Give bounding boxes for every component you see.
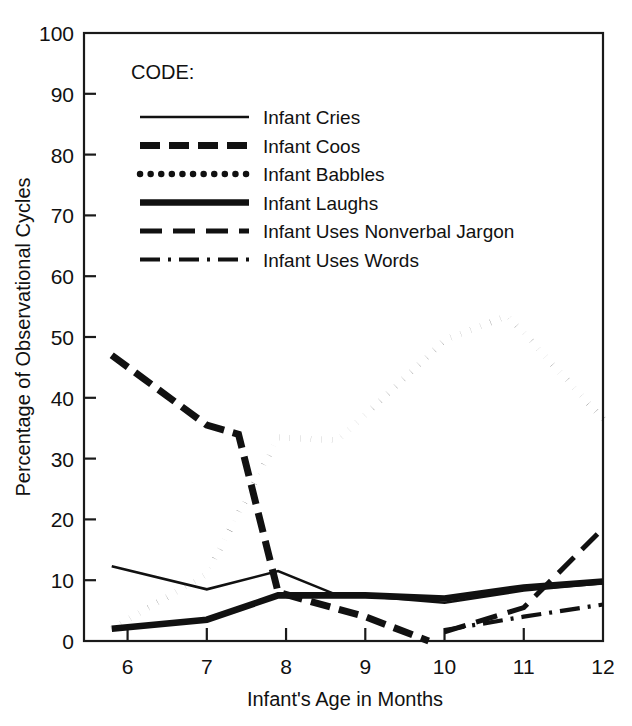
x-tick-label: 7 [201, 655, 213, 678]
legend-label-5: Infant Uses Words [263, 250, 419, 271]
y-tick-label: 20 [51, 508, 74, 531]
legend-label-2: Infant Babbles [263, 164, 384, 185]
x-tick-label: 12 [591, 655, 614, 678]
x-tick-label: 11 [513, 655, 535, 678]
x-tick-label: 9 [359, 655, 371, 678]
legend-label-1: Infant Coos [263, 136, 360, 157]
y-tick-label: 10 [51, 569, 74, 592]
legend-header: CODE: [131, 61, 194, 83]
x-tick-label: 8 [280, 655, 292, 678]
line-chart: 0102030405060708090100 6789101112 CODE: … [0, 0, 632, 726]
y-axis-title: Percentage of Observational Cycles [12, 177, 34, 496]
legend-label-0: Infant Cries [263, 107, 360, 128]
y-tick-label: 70 [51, 204, 74, 227]
x-tick-label: 6 [122, 655, 134, 678]
legend-label-4: Infant Uses Nonverbal Jargon [263, 221, 514, 242]
y-tick-label: 90 [51, 83, 74, 106]
y-tick-label: 80 [51, 144, 74, 167]
y-tick-label: 0 [62, 630, 74, 653]
legend-label-3: Infant Laughs [263, 193, 378, 214]
chart-figure: 0102030405060708090100 6789101112 CODE: … [0, 0, 632, 726]
y-tick-label: 30 [51, 448, 74, 471]
y-tick-label: 50 [51, 326, 74, 349]
y-tick-label: 60 [51, 265, 74, 288]
y-tick-label: 100 [39, 22, 74, 45]
x-axis-title: Infant's Age in Months [247, 688, 443, 710]
x-tick-label: 10 [433, 655, 456, 678]
y-tick-label: 40 [51, 387, 74, 410]
